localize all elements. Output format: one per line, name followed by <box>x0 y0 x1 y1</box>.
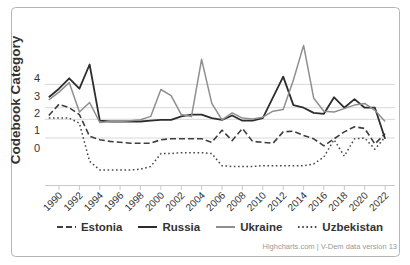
y-axis-title: Codebook Category <box>8 35 23 164</box>
x-tick-label: 2014 <box>286 189 310 213</box>
x-tick-label: 2006 <box>204 189 228 213</box>
series-line-russia[interactable] <box>49 65 385 139</box>
y-tick-label: 4 <box>34 72 40 84</box>
y-tick-label: 2 <box>34 107 40 119</box>
x-tick-label: 2022 <box>367 189 391 213</box>
y-tick-label: 1 <box>34 124 40 136</box>
x-tick-label: 2016 <box>306 189 330 213</box>
x-tick-label: 1994 <box>82 189 106 213</box>
y-tick-label: 0 <box>34 142 40 154</box>
legend-symbol-solid-line <box>138 223 157 231</box>
chart-credits: Highcharts.com | V-Dem data version 13 <box>262 242 397 251</box>
x-tick-label: 2018 <box>326 189 350 213</box>
legend-label: Ukraine <box>240 221 282 233</box>
x-tick-label: 2002 <box>163 189 187 213</box>
legend-item-ukraine[interactable]: Ukraine <box>216 221 282 233</box>
legend-item-estonia[interactable]: Estonia <box>57 221 123 233</box>
legend-symbol-dot-line <box>298 223 317 231</box>
x-tick-label: 2004 <box>184 189 208 213</box>
chart-frame-border <box>12 8 400 257</box>
x-tick-label: 2012 <box>265 189 289 213</box>
x-tick-label: 2008 <box>224 189 248 213</box>
legend-item-russia[interactable]: Russia <box>138 221 200 233</box>
vdem-line-chart: 4321019901992199419961998200020022004200… <box>0 0 410 265</box>
legend-label: Estonia <box>81 221 123 233</box>
credits-link[interactable]: Highcharts.com | V-Dem data version 13 <box>262 242 397 251</box>
legend-symbol-dash-line <box>57 223 76 231</box>
y-tick-label: 3 <box>34 90 40 102</box>
x-tick-label: 2010 <box>245 189 269 213</box>
x-tick-label: 1990 <box>41 189 65 213</box>
x-tick-label: 1998 <box>122 189 146 213</box>
x-tick-label: 2000 <box>143 189 167 213</box>
x-tick-label: 2020 <box>347 189 371 213</box>
series-line-uzbekistan[interactable] <box>49 118 385 170</box>
x-tick-label: 1992 <box>61 189 85 213</box>
legend-symbol-solid-line <box>216 223 235 231</box>
legend-label: Russia <box>162 221 200 233</box>
legend-label: Uzbekistan <box>322 221 383 233</box>
x-tick-label: 1996 <box>102 189 126 213</box>
legend-item-uzbekistan[interactable]: Uzbekistan <box>298 221 383 233</box>
chart-legend: EstoniaRussiaUkraineUzbekistan <box>30 221 410 233</box>
